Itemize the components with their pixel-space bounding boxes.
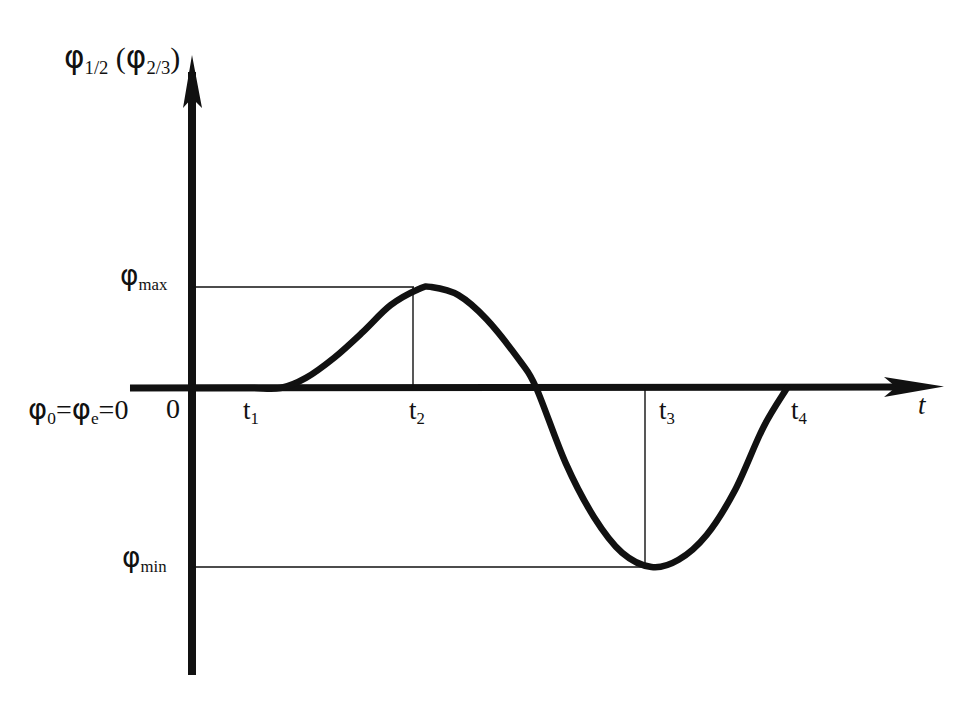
tick-label-t4: t4 <box>791 397 807 428</box>
figure-canvas: φ1/2 (φ2/3) φmax φmin φ0=φe=0 0 t1 t2 t3… <box>0 0 977 712</box>
t-axis-label: t <box>918 392 926 419</box>
tick-label-t2: t2 <box>409 397 425 428</box>
phi-max-label: φmax <box>120 262 167 294</box>
phi-min-label: φmin <box>122 544 167 576</box>
plot-svg <box>0 0 977 712</box>
origin-zero-label: 0 <box>166 395 180 423</box>
origin-equation-label: φ0=φe=0 <box>28 395 128 428</box>
tick-label-t3: t3 <box>659 397 675 428</box>
tick-label-t1: t1 <box>243 397 259 428</box>
y-axis-label: φ1/2 (φ2/3) <box>64 42 180 77</box>
phi-curve <box>193 286 787 567</box>
